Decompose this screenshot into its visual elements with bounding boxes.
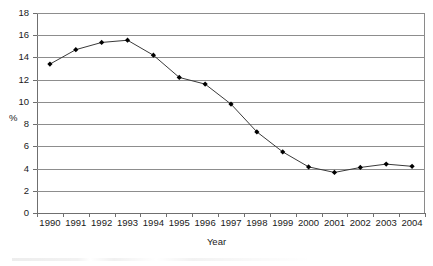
- x-tick-label-1995: 1995: [169, 218, 190, 228]
- y-tick-label-2: 2: [0, 186, 29, 196]
- x-tick-mark-2: [89, 213, 90, 217]
- y-tick-mark-8: [33, 124, 37, 125]
- data-point-1990: [47, 62, 52, 67]
- x-tick-label-1994: 1994: [143, 218, 164, 228]
- y-tick-mark-12: [33, 80, 37, 81]
- y-axis-title: %: [9, 113, 17, 123]
- x-tick-label-1992: 1992: [91, 218, 112, 228]
- y-tick-mark-10: [33, 102, 37, 103]
- x-tick-mark-14: [399, 213, 400, 217]
- x-tick-mark-5: [166, 213, 167, 217]
- x-tick-mark-3: [115, 213, 116, 217]
- x-tick-mark-12: [347, 213, 348, 217]
- x-tick-mark-8: [244, 213, 245, 217]
- y-tick-label-6: 6: [0, 142, 29, 152]
- x-tick-label-2002: 2002: [350, 218, 371, 228]
- x-tick-label-1993: 1993: [117, 218, 138, 228]
- data-point-2003: [384, 162, 389, 167]
- x-tick-label-2004: 2004: [401, 218, 422, 228]
- x-axis-line: [37, 213, 425, 214]
- x-tick-mark-13: [373, 213, 374, 217]
- x-tick-label-1998: 1998: [246, 218, 267, 228]
- data-point-1992: [99, 40, 104, 45]
- data-point-1991: [73, 47, 78, 52]
- x-axis-tick-labels: 1990199119921993199419951996199719981999…: [37, 218, 425, 232]
- data-point-2000: [306, 164, 311, 169]
- data-point-2001: [332, 170, 337, 175]
- data-point-2004: [409, 164, 414, 169]
- x-tick-mark-7: [218, 213, 219, 217]
- x-tick-label-2003: 2003: [376, 218, 397, 228]
- y-tick-label-10: 10: [0, 97, 29, 107]
- series-line-percent: [37, 13, 425, 213]
- line-chart-figure: 024681012141618 199019911992199319941995…: [0, 0, 433, 266]
- x-tick-mark-4: [140, 213, 141, 217]
- y-tick-mark-14: [33, 57, 37, 58]
- series-markers: [47, 38, 414, 175]
- x-tick-label-1997: 1997: [220, 218, 241, 228]
- x-tick-mark-1: [63, 213, 64, 217]
- y-tick-label-12: 12: [0, 75, 29, 85]
- y-tick-label-0: 0: [0, 208, 29, 218]
- page-text-artifact: [12, 258, 312, 261]
- x-tick-label-1990: 1990: [39, 218, 60, 228]
- x-tick-label-1999: 1999: [272, 218, 293, 228]
- y-tick-mark-4: [33, 169, 37, 170]
- data-point-1993: [125, 38, 130, 43]
- x-tick-label-1991: 1991: [65, 218, 86, 228]
- y-tick-mark-16: [33, 35, 37, 36]
- x-tick-mark-15: [425, 213, 426, 217]
- y-tick-label-16: 16: [0, 30, 29, 40]
- x-tick-label-1996: 1996: [195, 218, 216, 228]
- x-tick-label-2001: 2001: [324, 218, 345, 228]
- y-tick-label-14: 14: [0, 53, 29, 63]
- data-point-2002: [358, 165, 363, 170]
- x-tick-label-2000: 2000: [298, 218, 319, 228]
- x-tick-mark-10: [296, 213, 297, 217]
- y-tick-mark-18: [33, 13, 37, 14]
- y-tick-label-18: 18: [0, 8, 29, 18]
- y-tick-mark-2: [33, 191, 37, 192]
- plot-area: [37, 13, 425, 213]
- x-tick-mark-0: [37, 213, 38, 217]
- y-tick-mark-6: [33, 146, 37, 147]
- x-tick-mark-9: [270, 213, 271, 217]
- y-tick-label-4: 4: [0, 164, 29, 174]
- x-axis-title: Year: [0, 236, 433, 247]
- x-tick-mark-6: [192, 213, 193, 217]
- x-tick-mark-11: [322, 213, 323, 217]
